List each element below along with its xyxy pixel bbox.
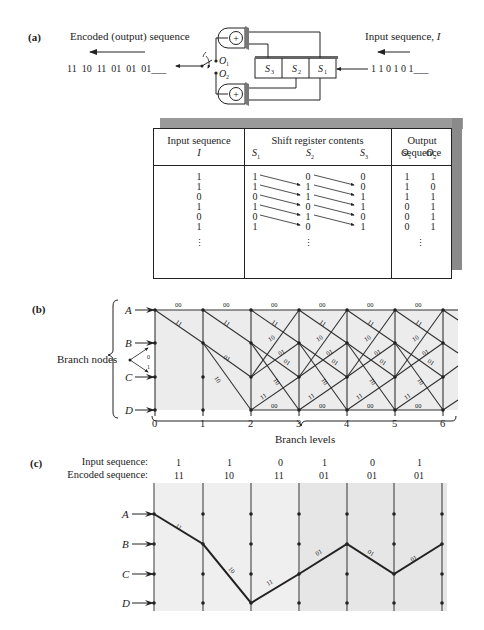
shift-arrows bbox=[154, 129, 453, 280]
table-shadow-right bbox=[452, 118, 462, 270]
svg-text:5: 5 bbox=[392, 418, 397, 429]
svg-text:11: 11 bbox=[265, 578, 274, 587]
svg-text:11: 11 bbox=[270, 318, 279, 327]
trellis-nodes bbox=[153, 308, 445, 412]
svg-text:0: 0 bbox=[278, 457, 283, 468]
svg-text:10: 10 bbox=[227, 565, 237, 574]
svg-text:11: 11 bbox=[318, 318, 327, 327]
svg-text:D: D bbox=[124, 404, 133, 416]
svg-text:00: 00 bbox=[271, 301, 278, 308]
svg-text:10: 10 bbox=[224, 470, 234, 481]
svg-text:S: S bbox=[318, 63, 323, 74]
svg-text:01: 01 bbox=[378, 357, 387, 366]
svg-text:00: 00 bbox=[319, 301, 326, 308]
svg-text:00: 00 bbox=[223, 301, 230, 308]
shift-register-table: Input sequence I Shift register contents… bbox=[153, 128, 452, 279]
branch-nodes-label: Branch nodes bbox=[57, 353, 117, 365]
svg-text:A: A bbox=[124, 304, 132, 316]
svg-text:11: 11 bbox=[414, 318, 423, 327]
path-background bbox=[155, 483, 447, 611]
svg-text:01: 01 bbox=[409, 554, 418, 563]
svg-text:00: 00 bbox=[367, 402, 374, 409]
svg-text:00: 00 bbox=[271, 402, 278, 409]
svg-text:S: S bbox=[265, 63, 270, 74]
svg-text:11: 11 bbox=[366, 318, 375, 327]
svg-text:11: 11 bbox=[175, 522, 184, 531]
part-b-label: (b) bbox=[32, 303, 45, 315]
svg-text:10: 10 bbox=[411, 333, 420, 342]
svg-text:1: 1 bbox=[417, 457, 422, 468]
svg-text:1: 1 bbox=[200, 418, 205, 429]
svg-text:00: 00 bbox=[415, 402, 422, 409]
svg-text:10: 10 bbox=[213, 375, 222, 384]
encoder-diagram: + + O1 O2 S3 S2 S1 bbox=[0, 0, 484, 110]
svg-text:S: S bbox=[292, 63, 297, 74]
svg-text:6: 6 bbox=[440, 418, 445, 429]
commutator-switch bbox=[202, 60, 212, 66]
svg-text:01: 01 bbox=[373, 347, 382, 356]
svg-text:11: 11 bbox=[174, 318, 183, 327]
svg-text:01: 01 bbox=[314, 548, 323, 557]
svg-text:01: 01 bbox=[325, 347, 334, 356]
svg-text:11: 11 bbox=[403, 391, 412, 400]
svg-text:10: 10 bbox=[320, 377, 329, 386]
svg-text:0: 0 bbox=[370, 457, 375, 468]
decoded-path bbox=[154, 514, 442, 603]
input-sequence-row-label: Input sequence: bbox=[73, 456, 148, 467]
svg-text:1: 1 bbox=[147, 364, 150, 370]
svg-text:11: 11 bbox=[174, 470, 184, 481]
svg-text:0: 0 bbox=[147, 354, 150, 360]
part-c-label: (c) bbox=[30, 457, 42, 469]
svg-text:11: 11 bbox=[274, 470, 284, 481]
svg-text:00: 00 bbox=[319, 402, 326, 409]
svg-text:01: 01 bbox=[282, 357, 291, 366]
svg-text:11: 11 bbox=[307, 391, 316, 400]
svg-text:01: 01 bbox=[426, 357, 435, 366]
svg-text:1: 1 bbox=[176, 457, 181, 468]
svg-text:01: 01 bbox=[222, 353, 231, 362]
svg-text:A: A bbox=[121, 508, 129, 520]
trellis-background bbox=[155, 310, 458, 410]
svg-text:C: C bbox=[122, 568, 130, 580]
svg-text:10: 10 bbox=[416, 377, 425, 386]
svg-text:1: 1 bbox=[324, 69, 327, 75]
svg-text:00: 00 bbox=[415, 301, 422, 308]
svg-text:11: 11 bbox=[355, 391, 364, 400]
trellis-edges bbox=[155, 310, 458, 416]
svg-text:01: 01 bbox=[367, 548, 376, 557]
svg-text:C: C bbox=[125, 371, 133, 383]
svg-text:0: 0 bbox=[152, 418, 157, 429]
svg-text:1: 1 bbox=[226, 61, 229, 67]
svg-text:3: 3 bbox=[296, 418, 301, 429]
svg-text:10: 10 bbox=[368, 377, 377, 386]
svg-text:2: 2 bbox=[248, 418, 253, 429]
svg-text:01: 01 bbox=[319, 470, 329, 481]
svg-text:B: B bbox=[125, 337, 132, 349]
svg-text:10: 10 bbox=[363, 333, 372, 342]
svg-text:10: 10 bbox=[267, 333, 276, 342]
svg-text:+: + bbox=[233, 89, 239, 100]
svg-text:01: 01 bbox=[330, 357, 339, 366]
svg-text:1: 1 bbox=[227, 457, 232, 468]
svg-text:11: 11 bbox=[259, 391, 268, 400]
svg-text:2: 2 bbox=[226, 74, 229, 80]
svg-text:D: D bbox=[121, 597, 130, 609]
svg-text:01: 01 bbox=[414, 470, 424, 481]
svg-text:1: 1 bbox=[322, 457, 327, 468]
svg-text:3: 3 bbox=[271, 69, 274, 75]
encoded-sequence-row-label: Encoded sequence: bbox=[53, 469, 148, 480]
svg-text:2: 2 bbox=[298, 69, 301, 75]
svg-text:B: B bbox=[122, 538, 129, 550]
svg-text:10: 10 bbox=[272, 377, 281, 386]
svg-text:10: 10 bbox=[315, 333, 324, 342]
branch-levels-label: Branch levels bbox=[275, 433, 335, 445]
svg-text:11: 11 bbox=[222, 318, 231, 327]
svg-text:4: 4 bbox=[344, 418, 350, 429]
svg-text:+: + bbox=[233, 33, 239, 44]
svg-text:01: 01 bbox=[421, 347, 430, 356]
svg-text:01: 01 bbox=[277, 347, 286, 356]
svg-text:00: 00 bbox=[367, 301, 374, 308]
svg-text:01: 01 bbox=[367, 470, 377, 481]
svg-text:00: 00 bbox=[175, 301, 182, 308]
